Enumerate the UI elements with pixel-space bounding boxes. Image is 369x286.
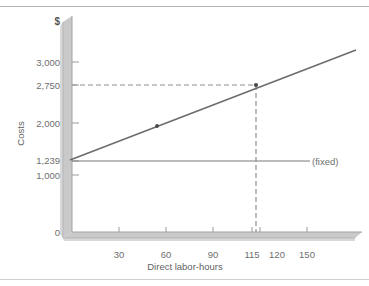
x-tick-marks bbox=[119, 227, 307, 232]
y-tick-label-1000: 1,000 bbox=[18, 171, 60, 181]
x-tick-label-30: 30 bbox=[104, 250, 134, 260]
fixed-cost-line-label: (fixed) bbox=[312, 156, 338, 167]
x-tick-label-60: 60 bbox=[151, 250, 181, 260]
total-cost-line bbox=[70, 50, 356, 160]
cost-behavior-chart: $ 3,000 2,750 2,000 1,239 1,000 0 30 60 … bbox=[0, 0, 369, 286]
x-axis-title: Direct labor-hours bbox=[120, 261, 250, 272]
y-axis-title: Costs bbox=[15, 109, 26, 159]
x-tick-label-90: 90 bbox=[198, 250, 228, 260]
data-point-marker-1 bbox=[155, 124, 159, 128]
x-tick-label-120: 120 bbox=[262, 250, 292, 260]
y-tick-label-2750: 2,750 bbox=[18, 81, 60, 91]
y-tick-label-3000: 3,000 bbox=[18, 58, 60, 68]
y-axis-bar bbox=[60, 16, 72, 238]
x-axis-bar bbox=[63, 232, 362, 241]
data-point-marker-2 bbox=[254, 83, 258, 87]
y-tick-label-0: 0 bbox=[18, 228, 60, 238]
chart-plot-area bbox=[0, 0, 369, 286]
x-tick-label-150: 150 bbox=[292, 250, 322, 260]
currency-symbol-label: $ bbox=[42, 16, 60, 27]
